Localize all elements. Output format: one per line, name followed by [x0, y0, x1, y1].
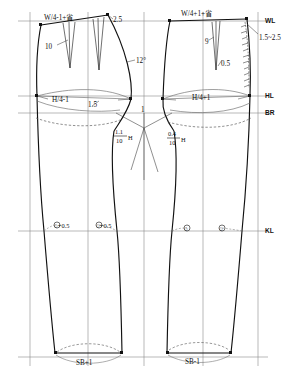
back-block-outline	[37, 15, 132, 353]
fly-hatch-11	[244, 85, 249, 87]
hem-tick-3	[166, 351, 169, 354]
fly-hatch-3	[242, 37, 247, 39]
back-angle-leader	[127, 60, 135, 62]
waist-tick-4	[245, 17, 248, 20]
hem-tick-4	[229, 351, 232, 354]
knee-line-label: KL	[265, 227, 274, 234]
fly-hatch-10	[244, 79, 249, 81]
hem-tick-1	[54, 351, 57, 354]
back-darts	[63, 17, 104, 70]
fly-hatch-4	[242, 43, 248, 45]
front-hem-dash	[169, 343, 229, 351]
back-hem-label: SB+1	[76, 359, 93, 367]
front-crotch-fraction-suffix: H	[181, 136, 186, 143]
back-angle-label: 12°	[136, 57, 146, 65]
pattern-svg: W/4-1+省 2.5 10 12° H/4-1 1.5 ○+0.5 ○+0.5…	[0, 0, 289, 375]
guide-lines	[18, 21, 268, 357]
fly-hatch-5	[243, 49, 248, 51]
crotch-fan-2	[131, 128, 144, 170]
back-crotch-fraction-suffix: H	[128, 134, 133, 141]
waist-tick-1	[39, 23, 42, 26]
front-seat-dash	[168, 118, 251, 127]
hip-tick-1	[35, 94, 38, 97]
front-darts	[212, 21, 220, 70]
back-rise-label: 2.5	[113, 16, 122, 24]
front-leaders	[209, 24, 258, 66]
back-crotch-fraction-numerator: 1.1	[115, 128, 123, 135]
knee-dashed-sweeps	[44, 225, 242, 231]
front-seat-guide	[170, 103, 250, 113]
crotch-line-label: BR	[265, 109, 275, 116]
waist-tick-2	[106, 13, 109, 16]
front-block-outline	[163, 19, 251, 353]
pattern-drawing-canvas: W/4-1+省 2.5 10 12° H/4-1 1.5 ○+0.5 ○+0.5…	[0, 0, 289, 375]
hip-tick-4	[248, 94, 251, 97]
fly-hatch-2	[241, 31, 247, 33]
front-crotch-curve	[163, 21, 174, 131]
fly-hatch-7	[243, 61, 249, 63]
back-side-seam	[37, 25, 55, 353]
crotch-fan-4	[144, 128, 158, 172]
back-dart-depth-label: 10	[45, 43, 53, 51]
front-crotch-fraction-numerator: 0.4	[168, 130, 177, 137]
fly-hatch-9	[244, 73, 249, 75]
front-waist-label: W/4+1+省	[181, 9, 212, 18]
front-hem-label: SB-1	[185, 358, 200, 366]
center-crotch-label: 1	[141, 106, 145, 114]
back-seat-dash	[36, 118, 120, 126]
front-knee-label-1: ○	[184, 225, 188, 232]
crotch-fan-lines	[116, 113, 172, 180]
knee-markers	[54, 222, 225, 231]
back-knee-label-2: ○+0.5	[96, 222, 111, 229]
hip-line-label: HL	[265, 92, 274, 99]
fly-hatch-8	[244, 67, 249, 69]
back-hip-label: H/4-1	[52, 96, 69, 104]
front-hip-arrow-l	[163, 99, 176, 100]
waist-line-label: WL	[265, 17, 275, 24]
back-inseam	[112, 131, 122, 353]
fly-hatch-1	[241, 25, 246, 27]
front-crotch-fraction-denominator: 10	[169, 139, 175, 146]
back-seat-guide	[37, 101, 120, 111]
back-hem-dash	[57, 344, 120, 352]
back-crotch-fraction-denominator: 10	[116, 137, 122, 144]
back-waist-label: W/4-1+省	[44, 13, 73, 22]
hem-tick-2	[120, 351, 123, 354]
seat-dashed-curves	[36, 118, 251, 127]
hip-tick-3	[161, 97, 164, 100]
back-leaders	[37, 15, 135, 106]
back-crotch-curve	[108, 15, 131, 131]
front-knee-label-2: ○	[219, 225, 223, 232]
hip-tick-2	[129, 97, 132, 100]
back-crotch-fraction: 1.1 10 H	[114, 128, 133, 144]
front-dart-depth-label: 9	[205, 38, 209, 46]
front-inseam	[167, 131, 176, 353]
front-dart-offset-label: 0.5	[221, 60, 230, 68]
front-side-seam	[231, 19, 250, 353]
back-seat-offset-label: 1.5	[88, 101, 97, 109]
front-hip-label: H/4+1	[192, 94, 211, 102]
front-fly-width-label: 1.5~2.5	[259, 34, 281, 42]
front-crotch-fraction: 0.4 10 H	[167, 130, 186, 146]
waist-tick-3	[168, 19, 171, 22]
back-knee-label-1: ○+0.5	[54, 222, 69, 229]
